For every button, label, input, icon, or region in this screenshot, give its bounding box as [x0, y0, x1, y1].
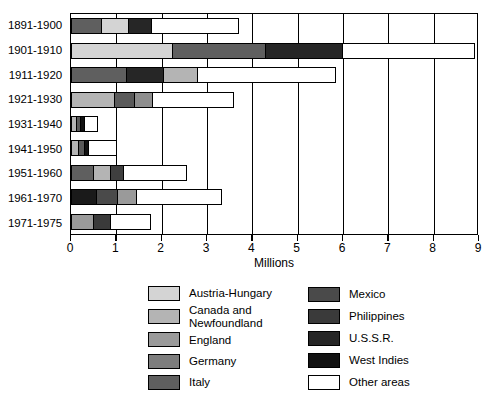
tick-label: 7 — [384, 241, 391, 255]
axes-frame — [70, 13, 478, 235]
legend-label: England — [189, 334, 231, 347]
stacked-bar — [71, 140, 117, 156]
bar-segment — [94, 166, 111, 180]
y-axis-label: 1931-1940 — [4, 112, 66, 137]
legend-item: Austria-Hungary — [148, 283, 308, 304]
x-axis-title: Millions — [70, 256, 478, 270]
legend-column-right: MexicoPhilippinesU.S.S.R.West IndiesOthe… — [308, 283, 468, 393]
legend-swatch — [308, 309, 340, 324]
bar-segment — [111, 215, 149, 229]
tick-label: 3 — [203, 241, 210, 255]
stacked-bar — [71, 165, 187, 181]
bar-segment — [135, 93, 154, 107]
legend-item: Other areas — [308, 371, 468, 393]
bar-segment — [72, 68, 127, 82]
legend-label: Philippines — [349, 310, 405, 323]
legend-item: Philippines — [308, 305, 468, 327]
legend-swatch — [148, 354, 180, 369]
bar-segment — [102, 19, 129, 33]
bar-row — [71, 185, 477, 209]
bar-segment — [198, 68, 335, 82]
legend-swatch — [148, 332, 180, 347]
legend-swatch — [148, 309, 180, 324]
bar-segment — [72, 44, 173, 58]
y-axis-label: 1941-1950 — [4, 136, 66, 161]
legend-label: Canada and Newfoundland — [189, 304, 263, 329]
y-axis-label: 1961-1970 — [4, 186, 66, 211]
stacked-bar — [71, 214, 151, 230]
legend-item: Canada and Newfoundland — [148, 304, 308, 329]
tick-label: 5 — [293, 241, 300, 255]
stacked-bar — [71, 189, 222, 205]
legend-label: Other areas — [349, 376, 410, 389]
bar-segment — [72, 190, 97, 204]
legend-label: Italy — [189, 376, 210, 389]
legend-swatch — [308, 375, 340, 390]
stacked-bar — [71, 116, 98, 132]
legend-swatch — [308, 331, 340, 346]
legend-swatch — [148, 286, 180, 301]
legend: Austria-HungaryCanada and NewfoundlandEn… — [148, 283, 468, 393]
y-axis-label: 1951-1960 — [4, 161, 66, 186]
y-axis-label: 1921-1930 — [4, 87, 66, 112]
legend-item: U.S.S.R. — [308, 327, 468, 349]
bar-row — [71, 14, 477, 38]
y-axis-category-labels: 1891-19001901-19101911-19201921-19301931… — [4, 13, 66, 235]
bar-segment — [124, 166, 186, 180]
legend-label: Germany — [189, 355, 236, 368]
bar-segment — [118, 190, 137, 204]
tick-label: 6 — [339, 241, 346, 255]
bar-segment — [129, 19, 151, 33]
legend-label: U.S.S.R. — [349, 332, 394, 345]
bar-segment — [343, 44, 475, 58]
bar-row — [71, 87, 477, 111]
bar-segment — [85, 117, 98, 131]
legend-swatch — [308, 353, 340, 368]
bar-segment — [266, 44, 343, 58]
x-axis-ticklabels: 0123456789 — [70, 241, 478, 257]
bar-row — [71, 38, 477, 62]
bar-segment — [72, 141, 79, 155]
bar-row — [71, 136, 477, 160]
stacked-bar — [71, 92, 234, 108]
bar-row — [71, 63, 477, 87]
stacked-bar — [71, 18, 239, 34]
legend-item: West Indies — [308, 349, 468, 371]
bar-row — [71, 161, 477, 185]
bar-segment — [72, 19, 102, 33]
tick-label: 1 — [112, 241, 119, 255]
y-axis-label: 1911-1920 — [4, 62, 66, 87]
y-axis-label: 1971-1975 — [4, 210, 66, 235]
legend-swatch — [308, 287, 340, 302]
bar-segment — [152, 19, 238, 33]
legend-item: Germany — [148, 351, 308, 372]
immigration-stacked-bar-chart: 1891-19001901-19101911-19201921-19301931… — [0, 0, 499, 397]
plot-area: 1891-19001901-19101911-19201921-19301931… — [0, 0, 499, 268]
bar-row — [71, 210, 477, 234]
legend-label: West Indies — [349, 354, 409, 367]
bar-segment — [173, 44, 265, 58]
stacked-bar — [71, 67, 336, 83]
bar-segment — [72, 93, 115, 107]
tick-label: 8 — [429, 241, 436, 255]
bar-segment — [97, 190, 118, 204]
bar-segment — [111, 166, 124, 180]
stacked-bar — [71, 43, 475, 59]
legend-column-left: Austria-HungaryCanada and NewfoundlandEn… — [148, 283, 308, 393]
bar-segment — [115, 93, 135, 107]
bar-segment — [164, 68, 198, 82]
bar-segment — [137, 190, 222, 204]
legend-label: Austria-Hungary — [189, 287, 272, 300]
bar-segment — [72, 215, 94, 229]
tick-label: 0 — [67, 241, 74, 255]
bar-segment — [89, 141, 116, 155]
legend-label: Mexico — [349, 288, 385, 301]
tick-label: 2 — [157, 241, 164, 255]
bar-segment — [72, 166, 94, 180]
legend-swatch — [148, 375, 180, 390]
tick-label: 4 — [248, 241, 255, 255]
bar-segment — [127, 68, 164, 82]
y-axis-label: 1891-1900 — [4, 13, 66, 38]
y-axis-label: 1901-1910 — [4, 38, 66, 63]
legend-item: England — [148, 329, 308, 350]
